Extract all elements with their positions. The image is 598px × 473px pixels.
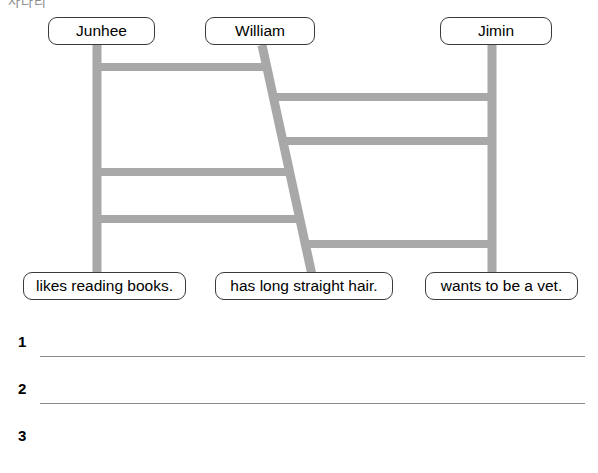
- statement-box-likes-reading-books[interactable]: likes reading books.: [23, 272, 186, 300]
- middle-pole: [262, 45, 312, 275]
- answer-row-3: 3: [0, 419, 598, 466]
- answer-number-1: 1: [18, 333, 26, 350]
- ladder-puzzle: Junhee William Jimin likes reading books…: [0, 0, 598, 310]
- name-box-jimin[interactable]: Jimin: [440, 17, 552, 45]
- name-box-william[interactable]: William: [205, 17, 315, 45]
- answer-write-line-2[interactable]: [40, 403, 585, 404]
- name-box-junhee[interactable]: Junhee: [48, 17, 155, 45]
- statement-box-has-long-straight-hair[interactable]: has long straight hair.: [215, 272, 393, 300]
- answer-number-3: 3: [18, 427, 26, 444]
- answer-list: 1 2 3: [0, 325, 598, 466]
- answer-row-1: 1: [0, 325, 598, 372]
- statement-box-wants-to-be-a-vet[interactable]: wants to be a vet.: [425, 272, 578, 300]
- answer-number-2: 2: [18, 380, 26, 397]
- answer-row-2: 2: [0, 372, 598, 419]
- ladder-diagram: [0, 0, 598, 310]
- answer-write-line-1[interactable]: [40, 356, 585, 357]
